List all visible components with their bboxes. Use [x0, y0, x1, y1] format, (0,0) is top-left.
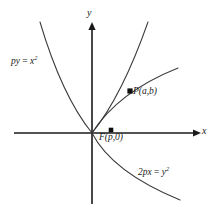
upward-parabola-label-lhs: py	[11, 56, 20, 66]
sideways-parabola-label-exponent: 2	[166, 165, 169, 172]
y-axis-arrowhead	[88, 22, 95, 30]
curve-upward-parabola	[40, 22, 148, 133]
focus-point-label: F(p,0)	[99, 133, 123, 143]
sideways-parabola-label-operator: =	[152, 167, 162, 177]
parabola-figure: x y py = x2 2px = y2 P(a,b) F(p,0)	[0, 0, 215, 213]
upward-parabola-label-operator: =	[20, 56, 30, 66]
focus-point-label-coords: (p,0)	[105, 132, 123, 142]
sideways-parabola-label-lhs: 2px	[138, 167, 152, 177]
y-axis-label: y	[87, 8, 91, 18]
x-axis-label: x	[202, 126, 206, 136]
figure-canvas	[0, 0, 215, 213]
sideways-parabola-label: 2px = y2	[138, 168, 169, 178]
upward-parabola-label: py = x2	[11, 57, 38, 67]
y-axis	[88, 22, 95, 204]
upward-parabola-label-exponent: 2	[34, 54, 37, 61]
intersection-point-label-coords: (a,b)	[139, 86, 157, 96]
intersection-point-label: P(a,b)	[133, 87, 157, 97]
x-axis-arrowhead	[193, 129, 201, 136]
intersection-point-marker	[127, 88, 132, 93]
